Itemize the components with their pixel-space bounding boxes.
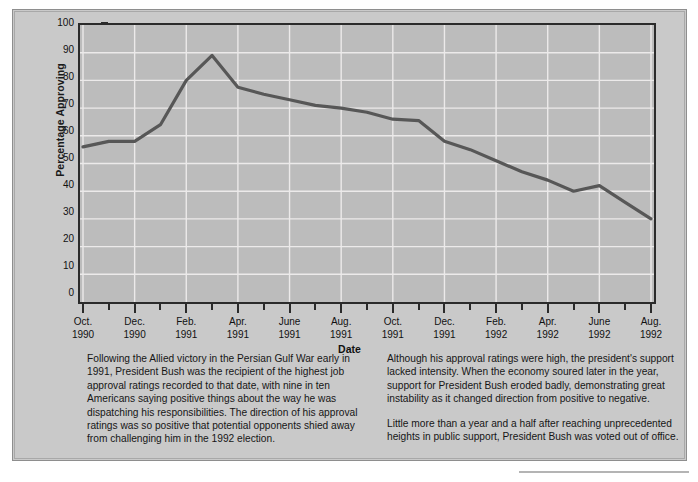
x-tick-label-month: June (264, 315, 316, 328)
x-tick-label: June1991 (264, 315, 316, 341)
caption-paragraph: Little more than a year and a half after… (387, 417, 687, 444)
y-tick-label: 10 (38, 261, 74, 271)
x-tick-mark (108, 304, 110, 310)
x-tick-mark (598, 304, 600, 313)
x-tick-mark (469, 304, 471, 310)
x-tick-mark (624, 304, 626, 310)
x-tick-label-month: Dec. (109, 315, 161, 328)
x-tick-mark (237, 304, 239, 313)
y-tick-label: 50 (38, 153, 74, 163)
x-tick-label-year: 1991 (418, 328, 470, 341)
y-tick-label: 40 (38, 180, 74, 190)
x-tick-label: Oct.1990 (57, 315, 109, 341)
x-tick-label-year: 1991 (367, 328, 419, 341)
caption-column-left: Following the Allied victory in the Pers… (87, 352, 369, 457)
x-tick-mark (366, 304, 368, 310)
caption-paragraph: Following the Allied victory in the Pers… (87, 352, 369, 446)
x-tick-label: Aug.1991 (315, 315, 367, 341)
y-tick-label: 70 (38, 99, 74, 109)
x-tick-label-month: Feb. (160, 315, 212, 328)
x-tick-mark (134, 304, 136, 313)
x-tick-mark (650, 304, 652, 313)
x-tick-label-month: Apr. (522, 315, 574, 328)
x-tick-label-year: 1990 (109, 328, 161, 341)
plot-region (78, 23, 656, 304)
x-tick-label: Feb.1991 (160, 315, 212, 341)
x-tick-label: Dec.1991 (418, 315, 470, 341)
figure-root: Percentage Approving 100 90 80 70 60 50 … (0, 0, 698, 482)
x-tick-label: Feb.1992 (470, 315, 522, 341)
x-tick-mark (340, 304, 342, 313)
x-tick-label-month: June (573, 315, 625, 328)
caption-area: Following the Allied victory in the Pers… (12, 352, 687, 461)
x-tick-mark (289, 304, 291, 313)
x-tick-label-year: 1992 (625, 328, 677, 341)
chart-area: Percentage Approving 100 90 80 70 60 50 … (12, 9, 687, 349)
x-tick-label: Apr.1991 (212, 315, 264, 341)
y-tick-label: 100 (38, 18, 74, 28)
caption-paragraph: Although his approval ratings were high,… (387, 352, 687, 406)
x-tick-mark (547, 304, 549, 313)
x-tick-label: Oct.1991 (367, 315, 419, 341)
x-tick-mark (443, 304, 445, 313)
x-tick-mark (392, 304, 394, 313)
y-tick-label: 20 (38, 234, 74, 244)
x-tick-mark (573, 304, 575, 310)
x-tick-label-month: Feb. (470, 315, 522, 328)
y-tick-label: 30 (38, 207, 74, 217)
y-axis-tick-labels: 100 90 80 70 60 50 40 30 20 10 0 (38, 9, 74, 309)
x-tick-mark (495, 304, 497, 313)
y-tick-label: 90 (38, 45, 74, 55)
x-tick-label-month: Aug. (625, 315, 677, 328)
x-tick-mark (418, 304, 420, 310)
x-tick-label-year: 1992 (522, 328, 574, 341)
x-tick-label-month: Aug. (315, 315, 367, 328)
x-tick-mark (211, 304, 213, 310)
x-tick-label: Dec.1990 (109, 315, 161, 341)
x-tick-mark (263, 304, 265, 310)
x-tick-mark (521, 304, 523, 310)
x-tick-label-month: Apr. (212, 315, 264, 328)
y-tick-label: 80 (38, 72, 74, 82)
caption-column-right: Although his approval ratings were high,… (387, 352, 687, 454)
x-tick-label-year: 1992 (573, 328, 625, 341)
approval-line-chart (80, 25, 654, 302)
x-tick-label: Aug.1992 (625, 315, 677, 341)
x-tick-label: June1992 (573, 315, 625, 341)
x-tick-label-month: Dec. (418, 315, 470, 328)
x-tick-mark (82, 304, 84, 313)
x-tick-label-year: 1991 (315, 328, 367, 341)
x-tick-label-year: 1991 (264, 328, 316, 341)
x-tick-label: Apr.1992 (522, 315, 574, 341)
x-tick-mark (314, 304, 316, 310)
gridlines (80, 25, 654, 302)
x-tick-label-year: 1992 (470, 328, 522, 341)
x-tick-mark (159, 304, 161, 310)
x-tick-label-year: 1991 (212, 328, 264, 341)
y-tick-label: 60 (38, 126, 74, 136)
x-tick-label-month: Oct. (57, 315, 109, 328)
x-tick-label-year: 1991 (160, 328, 212, 341)
y-tick-label: 0 (38, 288, 74, 298)
x-tick-label-year: 1990 (57, 328, 109, 341)
x-tick-label-month: Oct. (367, 315, 419, 328)
x-tick-mark (185, 304, 187, 313)
bottom-rule (519, 471, 689, 473)
